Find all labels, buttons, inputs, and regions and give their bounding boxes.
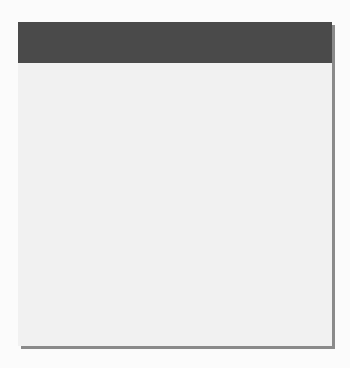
population-pyramids [0,0,350,368]
